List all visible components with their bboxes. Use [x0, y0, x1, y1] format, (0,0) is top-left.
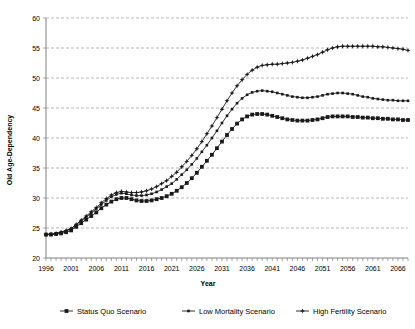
x-tick-label: 2041	[264, 265, 280, 272]
data-point-marker	[216, 130, 219, 133]
data-point-marker	[104, 203, 108, 207]
data-point-marker	[366, 96, 369, 99]
y-tick-label: 25	[32, 225, 40, 232]
data-point-marker	[365, 44, 370, 49]
data-point-marker	[295, 59, 300, 64]
x-tick-label: 2036	[239, 265, 255, 272]
data-point-marker	[396, 118, 400, 122]
y-tick-label: 20	[32, 255, 40, 262]
data-point-marker	[266, 90, 269, 93]
data-point-marker	[330, 45, 335, 50]
data-point-marker	[372, 97, 375, 100]
x-tick-labels: 1996200120062011201620212026203120362041…	[38, 265, 406, 272]
data-point-marker	[382, 98, 385, 101]
data-point-marker	[260, 63, 265, 68]
data-point-marker	[170, 182, 173, 185]
y-axis	[43, 18, 46, 258]
data-point-marker	[361, 116, 365, 120]
data-point-marker	[310, 54, 315, 59]
data-point-marker	[265, 113, 269, 117]
data-point-marker	[387, 99, 390, 102]
data-point-marker	[300, 57, 305, 62]
x-axis	[46, 258, 408, 261]
data-point-marker	[405, 48, 410, 53]
old-age-dependency-line-chart: 202530354045505560 199620012006201120162…	[0, 0, 415, 329]
data-point-marker	[395, 46, 400, 51]
data-point-marker	[185, 169, 188, 172]
data-point-marker	[377, 98, 380, 101]
data-point-marker	[180, 185, 184, 189]
plot-series	[43, 44, 410, 238]
x-tick-label: 2061	[365, 265, 381, 272]
y-tick-label: 60	[32, 15, 40, 22]
data-point-marker	[380, 44, 385, 49]
data-point-marker	[210, 153, 214, 157]
data-point-marker	[211, 137, 214, 140]
data-point-marker	[231, 108, 234, 111]
data-point-marker	[375, 44, 380, 49]
data-point-marker	[385, 45, 390, 50]
data-point-marker	[255, 112, 259, 116]
data-point-marker	[120, 196, 124, 200]
data-point-marker	[285, 118, 289, 122]
data-point-marker	[295, 119, 299, 123]
data-point-marker	[336, 92, 339, 95]
data-point-marker	[331, 115, 335, 119]
legend-item-1: Status Quo Scenario	[60, 307, 146, 316]
data-point-marker	[240, 118, 244, 122]
data-point-marker	[285, 60, 290, 65]
data-point-marker	[65, 309, 69, 313]
data-point-marker	[241, 97, 244, 100]
data-point-marker	[250, 113, 254, 117]
data-point-marker	[401, 118, 405, 122]
data-point-marker	[160, 188, 163, 191]
data-point-marker	[311, 118, 315, 122]
data-point-marker	[145, 194, 148, 197]
data-point-marker	[190, 176, 194, 180]
data-point-marker	[185, 181, 189, 185]
data-point-marker	[260, 112, 264, 116]
data-point-marker	[351, 115, 355, 119]
data-point-marker	[140, 194, 143, 197]
data-point-marker	[220, 140, 224, 144]
data-point-marker	[145, 199, 149, 203]
data-point-marker	[261, 89, 264, 92]
data-point-marker	[340, 44, 345, 49]
x-tick-label: 2066	[390, 265, 406, 272]
y-tick-label: 35	[32, 165, 40, 172]
data-point-marker	[321, 116, 325, 120]
legend-label: Low Mortality Scenario	[199, 307, 275, 316]
x-tick-label: 2001	[63, 265, 79, 272]
data-point-marker	[135, 199, 139, 203]
data-point-marker	[346, 92, 349, 95]
data-point-marker	[150, 193, 153, 196]
data-point-marker	[256, 90, 259, 93]
gridlines	[46, 18, 408, 228]
data-point-marker	[150, 199, 154, 203]
data-point-marker	[326, 93, 329, 96]
data-point-marker	[154, 184, 159, 189]
data-point-marker	[114, 197, 118, 201]
y-tick-labels: 202530354045505560	[32, 15, 40, 262]
data-point-marker	[214, 115, 219, 120]
data-point-marker	[306, 97, 309, 100]
data-point-marker	[144, 188, 149, 193]
data-point-marker	[351, 93, 354, 96]
data-point-marker	[275, 115, 279, 119]
data-point-marker	[311, 96, 314, 99]
data-point-marker	[94, 211, 98, 215]
y-tick-label: 40	[32, 135, 40, 142]
data-point-marker	[195, 171, 199, 175]
chart-container: 202530354045505560 199620012006201120162…	[0, 0, 415, 329]
data-point-marker	[407, 100, 410, 103]
data-point-marker	[271, 91, 274, 94]
data-point-marker	[280, 116, 284, 120]
data-point-marker	[201, 151, 204, 154]
data-point-marker	[215, 146, 219, 150]
series-line	[46, 91, 408, 235]
x-tick-label: 1996	[38, 265, 54, 272]
data-point-marker	[130, 197, 134, 201]
data-point-marker	[336, 115, 340, 119]
legend-label: Status Quo Scenario	[77, 307, 146, 316]
data-point-marker	[270, 114, 274, 118]
